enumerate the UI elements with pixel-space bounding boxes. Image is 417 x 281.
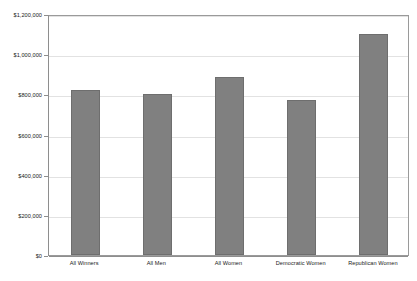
bar bbox=[287, 100, 316, 255]
x-axis-label: Republican Women bbox=[348, 260, 398, 267]
bar bbox=[215, 77, 244, 255]
bar bbox=[359, 34, 388, 255]
y-axis-label: $400,000 bbox=[18, 173, 42, 179]
gridline-1000000 bbox=[49, 56, 408, 57]
y-axis-tick-400000 bbox=[44, 176, 48, 177]
y-axis-tick-800000 bbox=[44, 95, 48, 96]
y-axis-tick-1000000 bbox=[44, 55, 48, 56]
x-axis-label: Democratic Women bbox=[276, 260, 326, 267]
x-axis-label: All Men bbox=[147, 260, 166, 267]
y-axis-label: $1,200,000 bbox=[14, 12, 43, 18]
bar bbox=[143, 94, 172, 255]
y-axis-label: $0 bbox=[36, 253, 42, 259]
y-axis-tick-600000 bbox=[44, 136, 48, 137]
bar bbox=[71, 90, 100, 255]
x-axis-label: All Women bbox=[215, 260, 242, 267]
y-axis-label: $600,000 bbox=[18, 133, 42, 139]
y-axis-label: $800,000 bbox=[18, 92, 42, 98]
gridline-0 bbox=[49, 256, 408, 257]
plot-area bbox=[48, 15, 409, 256]
y-axis-tick-1200000 bbox=[44, 15, 48, 16]
y-axis-label: $200,000 bbox=[18, 213, 42, 219]
gridline-1200000 bbox=[49, 16, 408, 17]
bar-chart: $0$200,000$400,000$600,000$800,000$1,000… bbox=[0, 0, 417, 281]
y-axis-tick-0 bbox=[44, 256, 48, 257]
y-axis-tick-200000 bbox=[44, 216, 48, 217]
y-axis-spine bbox=[48, 15, 49, 256]
y-axis-label: $1,000,000 bbox=[14, 52, 43, 58]
x-axis-label: All Winners bbox=[70, 260, 99, 267]
